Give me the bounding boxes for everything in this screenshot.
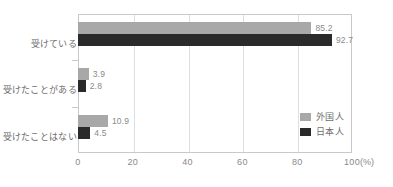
bar-value-label: 85.2 — [315, 23, 332, 33]
bar-japanese-ukete-iru[interactable]: 92.7 — [78, 34, 332, 46]
bar-value-label: 2.8 — [90, 81, 102, 91]
bar-foreigner-uketa-koto-ga-aru[interactable]: 3.9 — [78, 68, 89, 80]
category-label-2: 受けたことはない — [3, 130, 77, 143]
bar-value-label: 92.7 — [336, 35, 353, 45]
bar-group-uketa-koto-ga-aru: 3.9 2.8 — [78, 60, 352, 106]
bar-chart: 85.2 92.7 3.9 2.8 10.9 4.5 受けている 受けたことがあ… — [0, 0, 393, 187]
legend: 外国人 日本人 — [300, 110, 344, 140]
legend-item-japanese[interactable]: 日本人 — [300, 125, 344, 138]
bar-value-label: 3.9 — [93, 69, 105, 79]
bar-value-label: 10.9 — [112, 116, 129, 126]
legend-swatch-icon — [300, 113, 311, 121]
x-tick-label-20: 20 — [127, 157, 138, 167]
bar-foreigner-uketa-koto-wa-nai[interactable]: 10.9 — [78, 115, 108, 127]
x-tick-label-60: 60 — [237, 157, 248, 167]
legend-label: 外国人 — [316, 110, 344, 123]
legend-swatch-icon — [300, 128, 311, 136]
category-label-0: 受けている — [31, 37, 78, 50]
x-tick-label-0: 0 — [75, 157, 80, 167]
x-axis-unit-label: (%) — [360, 157, 374, 167]
bar-japanese-uketa-koto-wa-nai[interactable]: 4.5 — [78, 127, 90, 139]
x-tick-label-100: 100 — [344, 157, 360, 167]
x-tick-label-40: 40 — [182, 157, 193, 167]
x-tick-label-80: 80 — [292, 157, 303, 167]
bar-group-ukete-iru: 85.2 92.7 — [78, 14, 352, 60]
category-label-1: 受けたことがある — [3, 83, 77, 96]
legend-item-foreigner[interactable]: 外国人 — [300, 110, 344, 123]
bar-foreigner-ukete-iru[interactable]: 85.2 — [78, 22, 311, 34]
legend-label: 日本人 — [316, 125, 344, 138]
bar-value-label: 4.5 — [94, 128, 106, 138]
bar-japanese-uketa-koto-ga-aru[interactable]: 2.8 — [78, 80, 86, 92]
